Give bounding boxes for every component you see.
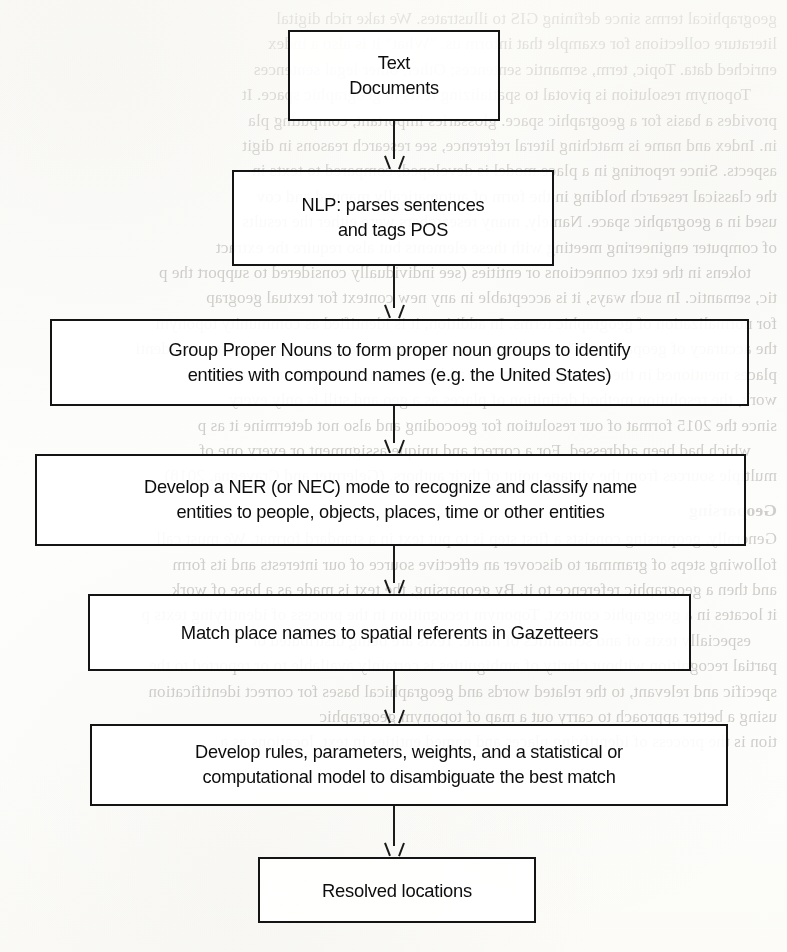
flow-node-label-line: Text (300, 51, 488, 76)
arrow-group-proper-nouns-to-ner (382, 406, 406, 454)
arrow-shaft (393, 121, 395, 159)
arrow-head-icon (386, 441, 403, 454)
flow-node-group-proper-nouns: Group Proper Nouns to form proper noun g… (50, 319, 749, 406)
flow-node-label-line: and tags POS (244, 218, 542, 243)
flow-node-label-line: Resolved locations (270, 878, 524, 903)
flow-node-label: Group Proper Nouns to form proper noun g… (62, 338, 737, 388)
flow-node-label: TextDocuments (300, 51, 488, 101)
arrow-shaft (393, 546, 395, 583)
flow-node-match-place-names-gazetteers: Match place names to spatial referents i… (88, 594, 691, 671)
arrow-shaft (393, 266, 395, 308)
flow-node-label-line: Develop rules, parameters, weights, and … (102, 740, 716, 765)
arrow-head-icon (386, 844, 403, 857)
flow-node-label-line: Develop a NER (or NEC) mode to recognize… (47, 475, 734, 500)
flowchart: TextDocumentsNLP: parses sentencesand ta… (0, 0, 787, 952)
flow-node-develop-rules-disambiguate: Develop rules, parameters, weights, and … (90, 724, 728, 806)
arrow-shaft (393, 806, 395, 846)
arrow-head-icon (386, 581, 403, 594)
arrow-gazetteer-match-to-develop-rules (382, 671, 406, 724)
flow-node-label-line: computational model to disambiguate the … (102, 765, 716, 790)
flow-node-develop-ner-nec-model: Develop a NER (or NEC) mode to recognize… (35, 454, 746, 546)
flow-node-label-line: Group Proper Nouns to form proper noun g… (62, 338, 737, 363)
flow-node-nlp-parse-sentences-tag-pos: NLP: parses sentencesand tags POS (232, 170, 554, 266)
flow-node-label: Develop a NER (or NEC) mode to recognize… (47, 475, 734, 525)
arrow-develop-rules-to-resolved (382, 806, 406, 857)
scanned-page: geographical terms since defining GIS to… (0, 0, 787, 952)
arrow-shaft (393, 671, 395, 713)
flow-node-label: Resolved locations (270, 878, 524, 903)
arrow-head-icon (386, 306, 403, 319)
flow-node-resolved-locations: Resolved locations (258, 857, 536, 923)
flow-node-label: NLP: parses sentencesand tags POS (244, 193, 542, 243)
arrow-head-icon (386, 157, 403, 170)
flow-node-label-line: Match place names to spatial referents i… (100, 620, 679, 645)
arrow-ner-to-gazetteer-match (382, 546, 406, 594)
arrow-shaft (393, 406, 395, 443)
arrow-head-icon (386, 711, 403, 724)
arrow-nlp-to-group-proper-nouns (382, 266, 406, 319)
flow-node-label: Match place names to spatial referents i… (100, 620, 679, 645)
flow-node-label-line: NLP: parses sentences (244, 193, 542, 218)
flow-node-label-line: entities to people, objects, places, tim… (47, 500, 734, 525)
arrow-text-documents-to-nlp (382, 121, 406, 170)
flow-node-label: Develop rules, parameters, weights, and … (102, 740, 716, 790)
flow-node-label-line: entities with compound names (e.g. the U… (62, 363, 737, 388)
flow-node-label-line: Documents (300, 76, 488, 101)
flow-node-text-documents: TextDocuments (288, 30, 500, 121)
